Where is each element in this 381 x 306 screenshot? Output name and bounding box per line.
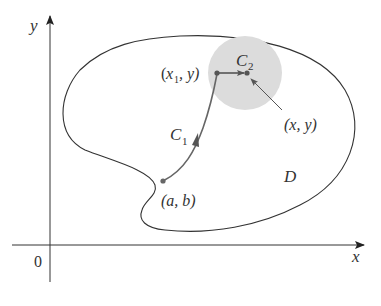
svg-text:x: x bbox=[165, 65, 173, 82]
origin-label: 0 bbox=[34, 253, 42, 270]
point-x-y-label: (x, y) bbox=[284, 116, 317, 134]
point-start bbox=[160, 178, 165, 183]
svg-text:C: C bbox=[236, 51, 248, 70]
region-label: D bbox=[283, 167, 297, 186]
point-x1-y bbox=[214, 70, 219, 75]
c1-arrow-icon bbox=[192, 133, 199, 147]
svg-text:C: C bbox=[170, 125, 182, 144]
svg-text:2: 2 bbox=[248, 60, 254, 72]
line-integral-diagram: y x 0 D C 1 C 2 ( x 1 , y) (x, y) (a, b) bbox=[0, 0, 381, 306]
x-axis-label: x bbox=[351, 247, 360, 266]
svg-text:1: 1 bbox=[182, 135, 188, 147]
point-x1-y-label: ( x 1 , y) bbox=[161, 65, 199, 85]
c1-label: C 1 bbox=[170, 125, 188, 147]
svg-text:, y): , y) bbox=[179, 65, 199, 83]
point-start-label: (a, b) bbox=[161, 192, 196, 210]
y-axis-label: y bbox=[28, 16, 38, 35]
